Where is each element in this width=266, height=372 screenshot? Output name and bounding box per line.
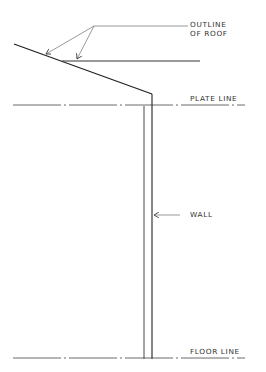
outline-of-roof-label-line2: OF ROOF: [190, 30, 228, 38]
wall: [144, 94, 152, 359]
wall-label: WALL: [190, 211, 213, 219]
diagram-canvas: OUTLINE OF ROOF PLATE LINE WALL FLOOR LI…: [0, 0, 266, 372]
section-drawing: [0, 0, 266, 372]
roof-leader-arrows: [46, 26, 188, 59]
outline-of-roof-label-line1: OUTLINE: [190, 21, 226, 29]
floor-line-label: FLOOR LINE: [190, 348, 240, 356]
roof-outline: [14, 44, 200, 94]
plate-line-label: PLATE LINE: [190, 95, 237, 103]
